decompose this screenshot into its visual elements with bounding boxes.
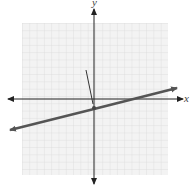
x-axis-label: x [183,92,189,104]
y-axis-label: y [91,0,97,8]
y-intercept-point [92,106,96,110]
coordinate-plane: y x [0,0,193,185]
